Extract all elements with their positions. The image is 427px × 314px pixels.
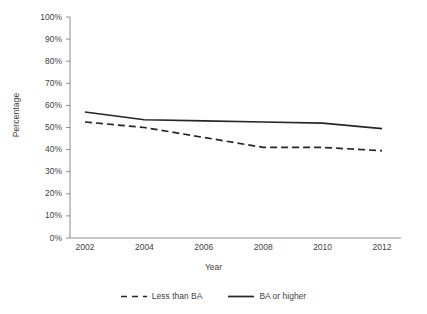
legend-label: Less than BA <box>152 291 203 301</box>
legend-label: BA or higher <box>259 291 306 301</box>
legend-swatch-dashed <box>121 292 147 301</box>
x-axis-tick-label: 2008 <box>238 243 288 252</box>
legend-swatch-solid <box>228 292 254 301</box>
x-axis-tick-label: 2002 <box>60 243 110 252</box>
x-axis-title: Year <box>0 262 427 272</box>
legend-item[interactable]: BA or higher <box>228 291 306 301</box>
x-axis-tick-label: 2010 <box>298 243 348 252</box>
x-axis-tick-label: 2012 <box>357 243 407 252</box>
chart-legend: Less than BABA or higher <box>0 291 427 301</box>
legend-item[interactable]: Less than BA <box>121 291 203 301</box>
x-axis-tick-label: 2006 <box>179 243 229 252</box>
x-axis-tick-label: 2004 <box>119 243 169 252</box>
chart-figure: Percentage 0%10%20%30%40%50%60%70%80%90%… <box>0 0 427 314</box>
